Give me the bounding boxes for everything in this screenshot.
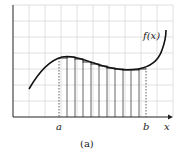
- grid: [13, 5, 173, 117]
- figure-caption: (a): [80, 138, 94, 149]
- b-label: b: [143, 121, 149, 132]
- a-label: a: [56, 121, 62, 132]
- x-axis-label: x: [164, 121, 170, 132]
- riemann-sum-diagram: f(x) a b x (a): [0, 0, 183, 153]
- function-label: f(x): [142, 30, 160, 41]
- x-axis-arrow-icon: [168, 115, 173, 120]
